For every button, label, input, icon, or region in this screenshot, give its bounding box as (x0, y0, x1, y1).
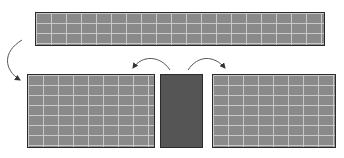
arrow-block-to-right-icon (188, 58, 225, 70)
arrow-block-to-left-icon (133, 58, 170, 70)
arrow-top-to-left-icon (8, 40, 23, 80)
arrows (0, 0, 344, 158)
